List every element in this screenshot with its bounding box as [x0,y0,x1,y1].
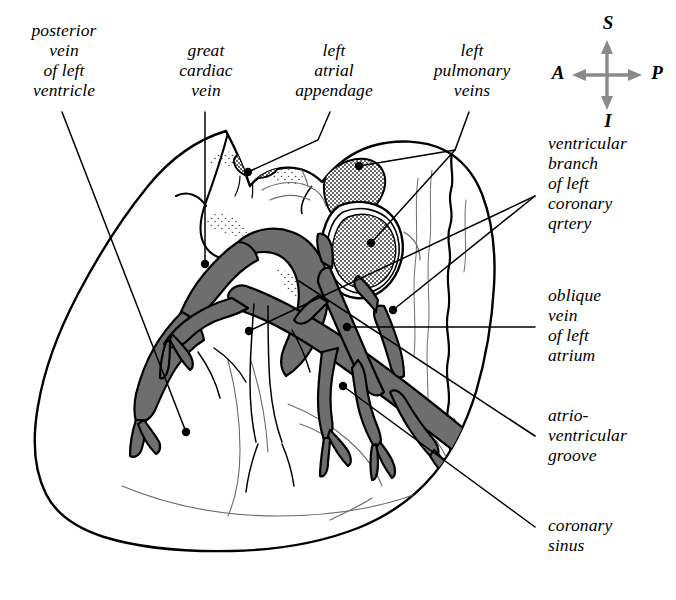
compass-label-superior: S [596,12,620,34]
dot-av-groove [245,327,253,335]
dot-ventricular-branch [389,306,397,314]
label-coronary-sinus: coronary sinus [548,515,674,555]
compass-arrow-anterior [572,69,586,81]
compass-label-anterior: A [546,62,570,84]
dot-coronary-sinus [339,382,347,390]
compass-arrow-superior [601,40,613,54]
compass-arrow-inferior [601,96,613,110]
orientation-compass [572,40,642,110]
heart-outline [35,131,495,551]
label-great-cardiac-vein: great cardiac vein [154,40,258,100]
dot-left-pulmonary-vein-upper [355,162,363,170]
compass-label-posterior: P [645,62,669,84]
compass-label-inferior: I [596,110,620,132]
lower-right-notch [452,467,487,514]
dot-oblique-vein [343,323,351,331]
label-atrioventricular-groove: atrio- ventricular groove [548,405,674,465]
label-left-pulmonary-veins: left pulmonary veins [410,40,534,100]
label-ventricular-branch-of-left-coronary-artery: ventricular branch of left coronary qrte… [548,133,674,233]
compass-arrow-posterior [628,69,642,81]
dot-left-atrial-appendage [244,168,252,176]
label-left-atrial-appendage: left atrial appendage [272,40,396,100]
leader-left-atrial-appendage [248,112,330,172]
dot-left-pulmonary-vein-lower [367,239,375,247]
ventricular-branch-2b [371,444,379,480]
label-oblique-vein-of-left-atrium: oblique vein of left atrium [548,285,674,365]
dot-posterior-vein [182,428,190,436]
dot-great-cardiac-vein [201,260,209,268]
label-posterior-vein-of-left-ventricle: posterior vein of left ventricle [6,20,122,100]
anatomical-figure: S A P I posterior vein of left ventricle… [0,0,676,600]
